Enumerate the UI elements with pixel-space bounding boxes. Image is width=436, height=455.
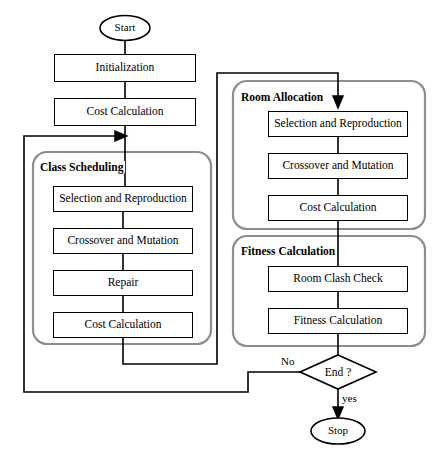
edge-no-feedback-loop	[24, 136, 300, 392]
terminator-start-label: Start	[100, 21, 150, 33]
group-label-fitness-calculation: Fitness Calculation	[239, 245, 337, 257]
node-ra-cost-calculation[interactable]: Cost Calculation	[268, 195, 408, 221]
node-cs-selection-and-reproduction[interactable]: Selection and Reproduction	[53, 186, 193, 212]
node-fc-fitness-calculation[interactable]: Fitness Calculation	[268, 308, 408, 334]
node-fc-room-clash-check[interactable]: Room Clash Check	[268, 266, 408, 292]
edge-label-yes: yes	[342, 392, 357, 404]
node-cs-repair[interactable]: Repair	[53, 270, 193, 296]
node-cost-calculation[interactable]: Cost Calculation	[54, 98, 196, 126]
group-label-room-allocation: Room Allocation	[239, 91, 325, 103]
group-label-class-scheduling: Class Scheduling	[38, 161, 125, 173]
node-ra-crossover-and-mutation[interactable]: Crossover and Mutation	[268, 153, 408, 179]
node-cs-crossover-and-mutation[interactable]: Crossover and Mutation	[53, 228, 193, 254]
decision-label-end: End ?	[310, 366, 366, 378]
node-initialization[interactable]: Initialization	[54, 54, 196, 82]
node-ra-selection-and-reproduction[interactable]: Selection and Reproduction	[268, 111, 408, 137]
edge-label-no: No	[281, 355, 294, 367]
node-cs-cost-calculation[interactable]: Cost Calculation	[53, 312, 193, 338]
flowchart-canvas: Start Stop Initialization Cost Calculati…	[0, 0, 436, 455]
terminator-stop-label: Stop	[311, 424, 365, 436]
